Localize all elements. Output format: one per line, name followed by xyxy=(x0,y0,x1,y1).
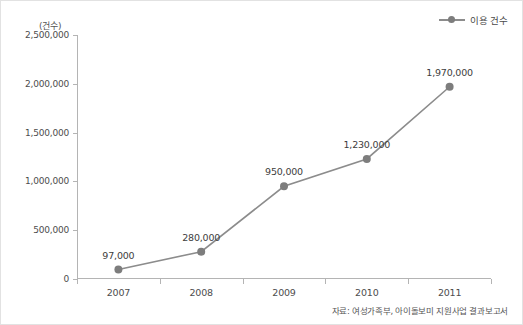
data-point-marker xyxy=(446,83,454,91)
x-tick-label: 2009 xyxy=(272,287,295,298)
x-tick-label: 2008 xyxy=(189,287,212,298)
y-tick-label: 1,500,000 xyxy=(25,128,69,138)
x-tick-label: 2010 xyxy=(355,287,378,298)
chart-legend: 이용 건수 xyxy=(439,13,508,27)
x-tick-mark xyxy=(491,279,492,284)
data-point-label: 97,000 xyxy=(102,250,134,261)
data-point-label: 950,000 xyxy=(265,166,303,177)
y-tick-label: 0 xyxy=(63,274,69,284)
x-tick-mark xyxy=(77,279,78,284)
data-point-marker xyxy=(280,182,288,190)
source-note: 자료: 여성가족부, 아이돌보미 지원사업 결과보고서 xyxy=(332,304,508,316)
data-point-marker xyxy=(197,248,205,256)
line-marker-icon xyxy=(439,15,465,25)
y-tick-label: 1,000,000 xyxy=(25,176,69,186)
x-tick-mark xyxy=(408,279,409,284)
y-tick-label: 2,500,000 xyxy=(25,30,69,40)
x-tick-label: 2011 xyxy=(438,287,461,298)
x-tick-mark xyxy=(243,279,244,284)
series-line xyxy=(118,87,449,270)
y-tick-label: 2,000,000 xyxy=(25,79,69,89)
line-chart-figure: 이용 건수 (건수) 0500,0001,000,0001,500,0002,0… xyxy=(0,0,523,325)
data-point-label: 1,970,000 xyxy=(426,67,473,78)
data-point-marker xyxy=(114,266,122,274)
data-point-label: 280,000 xyxy=(182,232,220,243)
y-tick-label: 500,000 xyxy=(33,225,69,235)
x-tick-mark xyxy=(160,279,161,284)
plot-area: 0500,0001,000,0001,500,0002,000,0002,500… xyxy=(77,35,491,279)
x-tick-label: 2007 xyxy=(107,287,130,298)
data-point-marker xyxy=(363,155,371,163)
data-point-label: 1,230,000 xyxy=(344,139,391,150)
x-tick-mark xyxy=(325,279,326,284)
legend-item-label: 이용 건수 xyxy=(470,13,508,27)
